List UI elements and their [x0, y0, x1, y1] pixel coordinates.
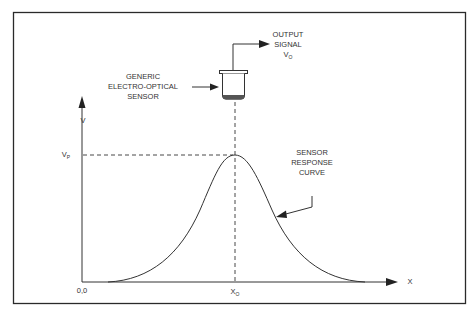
curve-label: SENSOR RESPONSE CURVE — [285, 148, 339, 178]
curve-pointer-arrow — [276, 196, 312, 218]
origin-label: 0,0 — [70, 286, 94, 296]
x0-subscript: O — [236, 291, 240, 297]
output-voltage-label: VO — [263, 50, 313, 62]
output-signal-line-1: OUTPUT — [263, 30, 313, 40]
sensor-icon — [220, 71, 248, 100]
output-subscript: O — [289, 54, 293, 60]
curve-label-line-3: CURVE — [285, 168, 339, 178]
sensor-label: GENERIC ELECTRO-OPTICAL SENSOR — [95, 72, 191, 102]
sensor-label-line-1: GENERIC — [95, 72, 191, 82]
curve-label-line-1: SENSOR — [285, 148, 339, 158]
sensor-label-line-3: SENSOR — [95, 92, 191, 102]
x0-label: XO — [227, 287, 243, 299]
output-signal-line-2: SIGNAL — [263, 40, 313, 50]
y-axis-label: V — [77, 116, 89, 126]
sensor-pointer-arrow — [192, 84, 219, 91]
x-axis-label: X — [404, 277, 416, 287]
sensor-label-line-2: ELECTRO-OPTICAL — [95, 82, 191, 92]
peak-subscript: P — [67, 154, 70, 160]
peak-voltage-label: VP — [58, 150, 74, 162]
diagram-frame — [14, 13, 466, 304]
curve-label-line-2: RESPONSE — [285, 158, 339, 168]
output-signal-label: OUTPUT SIGNAL VO — [263, 30, 313, 62]
